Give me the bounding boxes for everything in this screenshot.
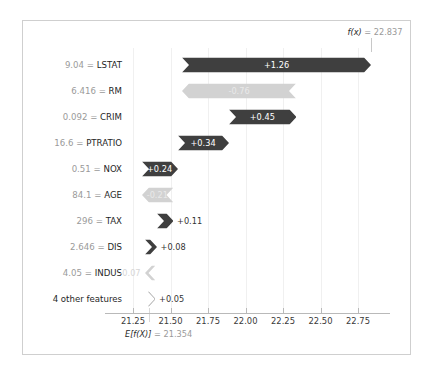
x-tick: [246, 308, 247, 313]
shap-bar-tax: [157, 214, 174, 229]
shap-bar-4-other-features: [148, 292, 156, 307]
equals-sign: =: [91, 164, 104, 174]
waterfall-row: 4.05 = INDUS-0.07: [0, 260, 434, 286]
y-axis-label-lstat: 9.04 = LSTAT: [65, 52, 122, 78]
feature-name: CRIM: [100, 112, 122, 122]
x-tick-label: 22.25: [271, 316, 295, 326]
feature-name: 4 other features: [53, 294, 122, 304]
x-tick-label: 22.00: [234, 316, 258, 326]
feature-name: TAX: [106, 216, 122, 226]
shap-value-label: -0.76: [228, 87, 249, 95]
feature-name: DIS: [107, 242, 122, 252]
waterfall-row: 4 other features+0.05: [0, 286, 434, 312]
figure-canvas: 9.04 = LSTAT+1.266.416 = RM-0.760.092 = …: [0, 0, 434, 374]
feature-value: 16.6: [54, 138, 73, 148]
equals-sign: =: [95, 242, 108, 252]
base-label: E[f(X)]: [125, 329, 151, 339]
feature-value: 2.646: [70, 242, 95, 252]
fx-value: 22.837: [374, 27, 403, 37]
y-axis-label-crim: 0.092 = CRIM: [63, 104, 122, 130]
x-tick: [358, 308, 359, 313]
equals-sign: =: [84, 60, 97, 70]
waterfall-row: 2.646 = DIS+0.08: [0, 234, 434, 260]
y-axis-label-4-other-features: 4 other features: [53, 286, 122, 312]
plot-area: 9.04 = LSTAT+1.266.416 = RM-0.760.092 = …: [0, 0, 434, 374]
x-tick: [133, 308, 134, 313]
fx-label: f(x): [348, 27, 362, 37]
x-tick-label: 21.75: [196, 316, 220, 326]
shap-value-label: +0.24: [147, 165, 172, 173]
x-tick: [208, 308, 209, 313]
feature-value: 9.04: [65, 60, 84, 70]
x-tick: [321, 308, 322, 313]
x-tick-label: 21.25: [121, 316, 145, 326]
waterfall-row: 9.04 = LSTAT+1.26: [0, 52, 434, 78]
shap-value-label: -0.07: [119, 269, 140, 277]
feature-name: LSTAT: [97, 60, 122, 70]
y-axis-label-tax: 296 = TAX: [77, 208, 122, 234]
feature-value: 4.05: [63, 268, 82, 278]
output-value-tick: [371, 38, 372, 52]
shap-value-label: +0.05: [159, 295, 184, 303]
equals-sign: =: [87, 112, 100, 122]
waterfall-row: 16.6 = PTRATIO+0.34: [0, 130, 434, 156]
shap-value-label: +0.08: [161, 243, 186, 251]
x-tick: [283, 308, 284, 313]
waterfall-row: 6.416 = RM-0.76: [0, 78, 434, 104]
waterfall-row: 0.092 = CRIM+0.45: [0, 104, 434, 130]
equals-sign: =: [93, 216, 106, 226]
y-axis-label-age: 84.1 = AGE: [72, 182, 122, 208]
shap-value-label: +0.45: [250, 113, 275, 121]
base-value-annotation: E[f(X)] = 21.354: [125, 329, 192, 339]
waterfall-row: 84.1 = AGE-0.21: [0, 182, 434, 208]
feature-name: AGE: [104, 190, 122, 200]
base-equals: =: [151, 329, 163, 339]
x-tick-label: 21.50: [159, 316, 183, 326]
equals-sign: =: [92, 190, 105, 200]
base-value: 21.354: [164, 329, 193, 339]
waterfall-row: 0.51 = NOX+0.24: [0, 156, 434, 182]
feature-value: 6.416: [71, 86, 96, 96]
y-axis-label-dis: 2.646 = DIS: [70, 234, 122, 260]
x-tick-label: 22.75: [346, 316, 370, 326]
y-axis-label-ptratio: 16.6 = PTRATIO: [54, 130, 122, 156]
equals-sign: =: [74, 138, 87, 148]
shap-value-label: +0.34: [191, 139, 216, 147]
feature-value: 84.1: [72, 190, 91, 200]
y-axis-label-nox: 0.51 = NOX: [72, 156, 122, 182]
x-tick: [171, 308, 172, 313]
feature-name: INDUS: [95, 268, 122, 278]
x-axis-line: [105, 313, 390, 314]
equals-sign: =: [96, 86, 109, 96]
x-tick-label: 22.50: [309, 316, 333, 326]
feature-value: 0.51: [72, 164, 91, 174]
shap-bar-indus: [145, 266, 156, 281]
y-axis-label-indus: 4.05 = INDUS: [63, 260, 122, 286]
shap-value-label: -0.21: [147, 191, 168, 199]
equals-sign: =: [82, 268, 95, 278]
feature-name: NOX: [103, 164, 122, 174]
feature-name: PTRATIO: [86, 138, 122, 148]
shap-value-label: +1.26: [264, 61, 289, 69]
shap-bar-dis: [145, 240, 157, 255]
fx-equals: =: [362, 27, 374, 37]
feature-name: RM: [109, 86, 122, 96]
feature-value: 296: [77, 216, 93, 226]
y-axis-label-rm: 6.416 = RM: [71, 78, 122, 104]
output-value-annotation: f(x) = 22.837: [348, 27, 403, 37]
feature-value: 0.092: [63, 112, 88, 122]
shap-value-label: +0.11: [177, 217, 202, 225]
waterfall-row: 296 = TAX+0.11: [0, 208, 434, 234]
